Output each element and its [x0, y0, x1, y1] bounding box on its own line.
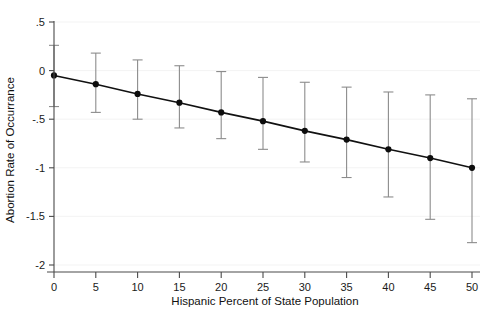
- data-point: [218, 109, 224, 115]
- x-tick-label: 10: [131, 281, 143, 293]
- data-point: [176, 100, 182, 106]
- chart-background: [0, 0, 485, 323]
- y-tick-label: 0: [39, 65, 45, 77]
- x-axis-title: Hispanic Percent of State Population: [171, 295, 358, 307]
- data-point: [469, 165, 475, 171]
- data-point: [344, 137, 350, 143]
- x-tick-label: 5: [93, 281, 99, 293]
- data-point: [385, 146, 391, 152]
- data-point: [135, 91, 141, 97]
- y-tick-label: -1.5: [26, 210, 45, 222]
- x-tick-label: 40: [382, 281, 394, 293]
- x-tick-label: 30: [299, 281, 311, 293]
- y-tick-label: .5: [36, 16, 45, 28]
- y-tick-label: -2: [35, 259, 45, 271]
- x-tick-label: 20: [215, 281, 227, 293]
- x-tick-label: 25: [257, 281, 269, 293]
- x-tick-label: 35: [340, 281, 352, 293]
- chart-canvas: .50-.5-1-1.5-2 05101520253035404550 Abor…: [0, 0, 485, 323]
- x-tick-label: 45: [424, 281, 436, 293]
- x-tick-label: 15: [173, 281, 185, 293]
- data-point: [427, 155, 433, 161]
- x-tick-label: 50: [466, 281, 478, 293]
- y-tick-label: -1: [35, 162, 45, 174]
- data-point: [93, 81, 99, 87]
- y-tick-label: -.5: [32, 113, 45, 125]
- x-tick-label: 0: [51, 281, 57, 293]
- y-axis-title: Abortion Rate of Occurrance: [4, 77, 16, 223]
- data-point: [302, 128, 308, 134]
- chart-figure: .50-.5-1-1.5-2 05101520253035404550 Abor…: [0, 0, 485, 323]
- data-point: [260, 118, 266, 124]
